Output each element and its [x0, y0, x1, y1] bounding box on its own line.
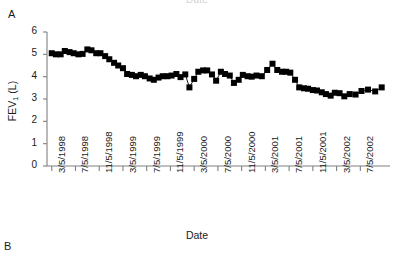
y-axis-title: FEV1 (L) [6, 61, 18, 141]
x-tick-label: 3/5/2001 [269, 136, 280, 173]
y-tick-label: 2 [23, 114, 37, 125]
data-point-marker [270, 61, 276, 67]
data-point-marker [372, 88, 378, 94]
y-tick-label: 3 [23, 92, 37, 103]
data-point-marker [264, 67, 270, 73]
x-tick-label: 7/5/1998 [79, 136, 90, 173]
y-tick-label: 6 [23, 25, 37, 36]
data-point-marker [182, 71, 188, 77]
y-axis-title-subscript: 1 [11, 97, 20, 101]
y-tick-label: 0 [23, 159, 37, 170]
x-tick-label: 7/5/1999 [151, 136, 162, 173]
x-tick-label: 3/5/2000 [198, 136, 209, 173]
y-axis-title-text: FEV [6, 101, 18, 121]
data-point-marker [287, 70, 293, 76]
data-point-marker [253, 73, 259, 79]
data-point-marker [359, 88, 365, 94]
data-point-marker [347, 91, 353, 97]
data-point-marker [353, 92, 359, 98]
data-markers-fev1 [49, 46, 385, 99]
data-point-marker [365, 87, 371, 93]
panel-label-b: B [4, 240, 11, 252]
data-point-marker [341, 93, 347, 99]
x-tick-label: 7/5/2002 [364, 136, 375, 173]
data-line-fev1 [52, 49, 382, 96]
x-axis-title: Date [0, 229, 394, 241]
x-tick-label: 7/5/2001 [293, 136, 304, 173]
data-point-marker [191, 76, 197, 82]
x-tick-label: 11/5/2000 [246, 131, 257, 173]
y-axis-ticks [43, 32, 47, 166]
data-point-marker [379, 84, 385, 90]
series-polyline [52, 49, 382, 96]
data-point-marker [213, 78, 219, 84]
y-tick-label: 5 [23, 47, 37, 58]
x-tick-label: 3/5/2002 [341, 136, 352, 173]
data-point-marker [120, 65, 126, 71]
data-point-marker [259, 73, 265, 79]
data-point-marker [292, 77, 298, 83]
figure-panel-a: Date A 0123456 3/5/19987/5/199811/5/1998… [0, 0, 394, 259]
y-tick-label: 1 [23, 137, 37, 148]
x-tick-label: 11/5/1998 [103, 131, 114, 173]
plot-area: 0123456 3/5/19987/5/199811/5/19983/5/199… [0, 0, 394, 259]
y-tick-label: 4 [23, 70, 37, 81]
data-point-marker [209, 71, 215, 77]
fev1-time-series-chart [0, 0, 394, 259]
x-tick-label: 3/5/1999 [127, 136, 138, 173]
y-axis-title-unit: (L) [6, 81, 18, 97]
data-point-marker [186, 84, 192, 90]
x-tick-label: 3/5/1998 [56, 136, 67, 173]
data-point-marker [227, 73, 233, 79]
x-tick-label: 7/5/2000 [222, 136, 233, 173]
x-tick-label: 11/5/2001 [317, 131, 328, 173]
x-tick-label: 11/5/1999 [174, 131, 185, 173]
